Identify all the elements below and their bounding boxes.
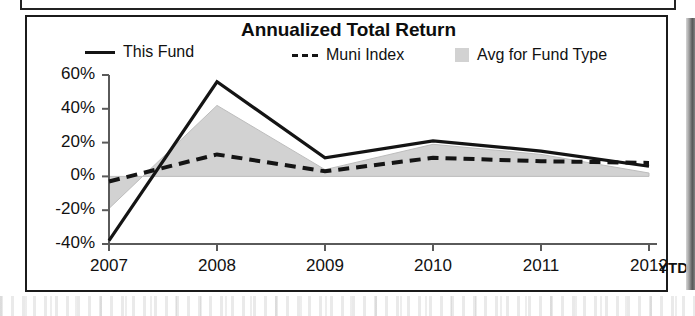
x-tick-label: 2007 bbox=[73, 256, 145, 276]
y-tick-label: -40% bbox=[35, 233, 95, 253]
scan-artifact-bottom-noise bbox=[0, 296, 695, 316]
y-tick-label: 60% bbox=[35, 64, 95, 84]
y-tick-label: 0% bbox=[35, 165, 95, 185]
chart-svg bbox=[27, 17, 670, 294]
y-tick-label: -20% bbox=[35, 199, 95, 219]
y-tick-label: 20% bbox=[35, 132, 95, 152]
scan-artifact-top-strip bbox=[20, 0, 676, 10]
x-tick-label: 2008 bbox=[181, 256, 253, 276]
y-tick-label: 40% bbox=[35, 98, 95, 118]
x-tick-label: 2010 bbox=[397, 256, 469, 276]
plot-area: 60%40%20%0%-20%-40% 20072008200920102011… bbox=[27, 17, 670, 294]
x-tick-label: 2011 bbox=[505, 256, 577, 276]
scan-artifact-right-edge bbox=[686, 18, 695, 290]
x-axis-ytd-label: YTD bbox=[658, 259, 688, 276]
x-tick-label: 2009 bbox=[289, 256, 361, 276]
chart-panel: Annualized Total Return This Fund Muni I… bbox=[25, 15, 668, 292]
